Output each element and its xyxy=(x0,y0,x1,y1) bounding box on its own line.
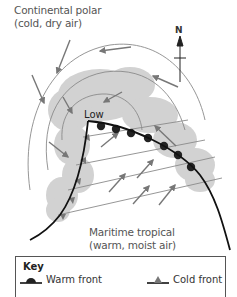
key-item-warm-front: Warm front xyxy=(20,274,102,285)
continental-polar-desc: (cold, dry air) xyxy=(14,17,101,30)
key-warm-front-label: Warm front xyxy=(46,274,102,285)
maritime-tropical-title: Maritime tropical xyxy=(89,226,176,239)
low-pressure-label: Low xyxy=(84,109,104,120)
key-item-cold-front: Cold front xyxy=(147,274,222,285)
continental-polar-title: Continental polar xyxy=(14,4,101,17)
key-title: Key xyxy=(23,261,44,272)
maritime-tropical-desc: (warm, moist air) xyxy=(89,239,176,252)
warm-front-icon xyxy=(20,275,42,285)
north-label: N xyxy=(175,25,183,35)
key-box: Key Warm front Cold front xyxy=(15,256,226,297)
key-cold-front-label: Cold front xyxy=(173,274,222,285)
cold-front-icon xyxy=(147,275,169,285)
maritime-tropical-label: Maritime tropical (warm, moist air) xyxy=(89,226,176,252)
continental-polar-label: Continental polar (cold, dry air) xyxy=(14,4,101,30)
